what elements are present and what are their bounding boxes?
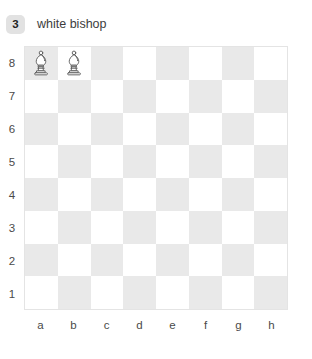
rank-label-1: 1 [0,277,24,310]
rank-label-3: 3 [0,211,24,244]
square-d8[interactable] [123,47,156,80]
square-f3[interactable] [189,211,222,244]
rank-label-4: 4 [0,178,24,211]
file-label-a: a [24,314,57,336]
square-f1[interactable] [189,276,222,309]
square-a5[interactable] [25,145,58,178]
board-area: 87654321 abcdefgh [0,44,312,344]
square-g6[interactable] [222,113,255,146]
square-c3[interactable] [91,211,124,244]
square-c7[interactable] [91,80,124,113]
square-d3[interactable] [123,211,156,244]
rank-label-5: 5 [0,145,24,178]
square-h5[interactable] [254,145,287,178]
square-h6[interactable] [254,113,287,146]
square-f2[interactable] [189,244,222,277]
white-bishop-icon [28,49,54,77]
rank-labels: 87654321 [0,46,24,310]
file-label-e: e [156,314,189,336]
page-title: white bishop [37,17,107,31]
square-b1[interactable] [58,276,91,309]
square-g7[interactable] [222,80,255,113]
puzzle-header: 3 white bishop [6,14,107,34]
square-e5[interactable] [156,145,189,178]
square-d4[interactable] [123,178,156,211]
square-d6[interactable] [123,113,156,146]
square-f6[interactable] [189,113,222,146]
square-a1[interactable] [25,276,58,309]
square-h3[interactable] [254,211,287,244]
square-f5[interactable] [189,145,222,178]
square-g1[interactable] [222,276,255,309]
square-c8[interactable] [91,47,124,80]
square-d5[interactable] [123,145,156,178]
rank-label-6: 6 [0,112,24,145]
rank-label-8: 8 [0,46,24,79]
square-f8[interactable] [189,47,222,80]
square-c5[interactable] [91,145,124,178]
square-e8[interactable] [156,47,189,80]
chessboard[interactable] [24,46,288,310]
square-a6[interactable] [25,113,58,146]
square-e6[interactable] [156,113,189,146]
square-b4[interactable] [58,178,91,211]
square-c6[interactable] [91,113,124,146]
square-e3[interactable] [156,211,189,244]
square-a8[interactable] [25,47,58,80]
file-label-f: f [189,314,222,336]
square-a7[interactable] [25,80,58,113]
square-b2[interactable] [58,244,91,277]
file-label-c: c [90,314,123,336]
file-label-d: d [123,314,156,336]
square-e2[interactable] [156,244,189,277]
square-h8[interactable] [254,47,287,80]
file-labels: abcdefgh [24,314,288,336]
square-h4[interactable] [254,178,287,211]
square-e4[interactable] [156,178,189,211]
square-g2[interactable] [222,244,255,277]
square-h7[interactable] [254,80,287,113]
square-a3[interactable] [25,211,58,244]
square-f4[interactable] [189,178,222,211]
white-bishop-icon [61,49,87,77]
square-e7[interactable] [156,80,189,113]
square-c1[interactable] [91,276,124,309]
square-c2[interactable] [91,244,124,277]
square-h1[interactable] [254,276,287,309]
square-g5[interactable] [222,145,255,178]
rank-label-7: 7 [0,79,24,112]
file-label-b: b [57,314,90,336]
square-g3[interactable] [222,211,255,244]
file-label-h: h [255,314,288,336]
square-g4[interactable] [222,178,255,211]
square-d2[interactable] [123,244,156,277]
square-h2[interactable] [254,244,287,277]
rank-label-2: 2 [0,244,24,277]
square-d1[interactable] [123,276,156,309]
step-number-badge: 3 [6,15,25,34]
square-b8[interactable] [58,47,91,80]
square-a2[interactable] [25,244,58,277]
square-g8[interactable] [222,47,255,80]
square-f7[interactable] [189,80,222,113]
file-label-g: g [222,314,255,336]
square-b7[interactable] [58,80,91,113]
square-c4[interactable] [91,178,124,211]
square-b5[interactable] [58,145,91,178]
square-d7[interactable] [123,80,156,113]
square-b6[interactable] [58,113,91,146]
square-e1[interactable] [156,276,189,309]
square-a4[interactable] [25,178,58,211]
chess-puzzle-panel: 3 white bishop 87654321 abcdefgh [0,0,312,359]
square-b3[interactable] [58,211,91,244]
